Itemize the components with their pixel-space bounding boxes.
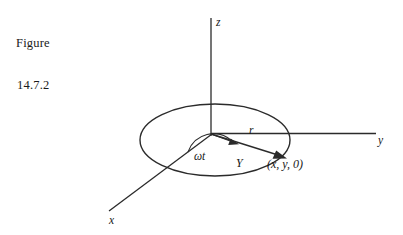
- x-axis-line: [109, 134, 212, 211]
- gamma-label: Y: [236, 156, 244, 170]
- angular-position-label: ωt: [194, 150, 206, 162]
- y-axis-label: y: [377, 134, 384, 147]
- radius-label: r: [249, 124, 254, 136]
- coordinate-diagram: z y x r ωt Y (x, y, 0): [0, 0, 403, 235]
- x-axis-label: x: [108, 214, 115, 226]
- point-coordinate-label: (x, y, 0): [267, 157, 303, 171]
- z-axis-label: z: [215, 16, 221, 28]
- figure-root: Figure 14.7.2 z y x r ωt Y (x, y, 0): [0, 0, 403, 235]
